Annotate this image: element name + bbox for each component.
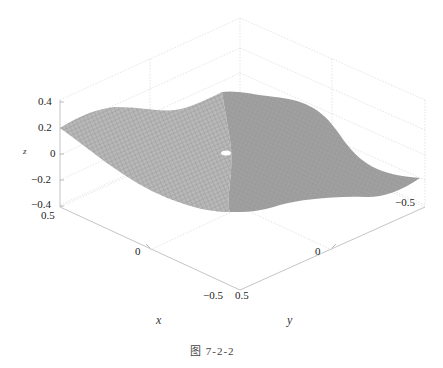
y-tick-neg0.5: −0.5 [395, 196, 415, 208]
z-tick-neg0.2: −0.2 [31, 173, 51, 185]
x-axis-label: x [156, 313, 161, 328]
z-tick-0.2: 0.2 [38, 121, 52, 133]
surface-plot [0, 0, 443, 368]
z-tick-0: 0 [50, 147, 56, 159]
y-tick-0.5: 0.5 [235, 289, 249, 301]
x-tick-0: 0 [135, 245, 141, 257]
x-tick-0.5: 0.5 [41, 209, 55, 221]
surface-mesh [60, 91, 420, 212]
y-axis-label: y [287, 313, 292, 328]
z-axis-label: z [23, 146, 27, 156]
z-tick-0.4: 0.4 [38, 95, 52, 107]
y-tick-0: 0 [315, 245, 321, 257]
figure-caption: 图 7-2-2 [190, 342, 235, 358]
x-tick-neg0.5: −0.5 [203, 289, 223, 301]
